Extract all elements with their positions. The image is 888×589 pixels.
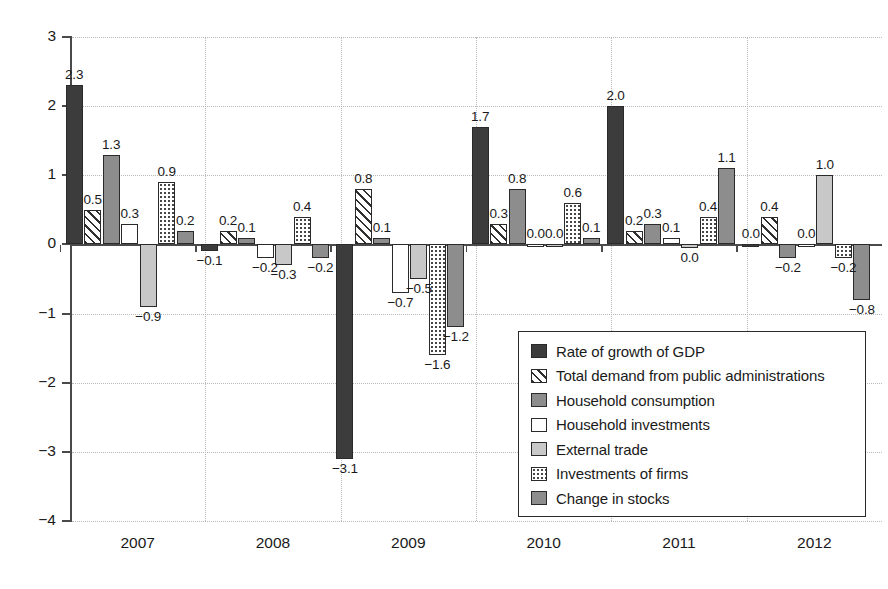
legend-swatch-icon — [531, 418, 547, 432]
y-axis-tick — [62, 520, 72, 522]
bar — [798, 244, 815, 247]
bar-value-label: −0.8 — [845, 302, 879, 317]
y-axis-tick-label: −1 — [18, 304, 56, 322]
legend-swatch-icon — [531, 369, 547, 383]
bar-value-label: 1.0 — [808, 157, 842, 172]
bar-value-label: 0.0 — [734, 226, 768, 241]
zero-line-tick — [330, 245, 332, 252]
y-axis-tick-label: 2 — [18, 96, 56, 114]
zero-line-tick — [195, 245, 197, 252]
y-axis-tick — [62, 382, 72, 384]
legend-swatch-icon — [531, 442, 547, 456]
bar-value-label: 1.1 — [710, 150, 744, 165]
bar-value-label: −0.2 — [304, 260, 338, 275]
bar — [700, 217, 717, 245]
bar — [140, 244, 157, 306]
bar-value-label: −0.1 — [193, 253, 227, 268]
bar-value-label: 1.3 — [94, 137, 128, 152]
zero-line-tick — [736, 245, 738, 252]
bar-value-label: −1.6 — [420, 357, 454, 372]
zero-line-tick — [601, 245, 603, 252]
bar-value-label: 0.4 — [285, 199, 319, 214]
legend-item[interactable]: Rate of growth of GDP — [531, 339, 865, 364]
y-axis-tick — [62, 313, 72, 315]
bar-value-label: −0.7 — [383, 295, 417, 310]
x-axis-label: 2010 — [504, 534, 584, 552]
zero-line-tick — [60, 245, 62, 252]
bar — [294, 217, 311, 245]
gridline-horizontal — [72, 521, 882, 523]
y-axis-tick-label: 3 — [18, 27, 56, 45]
bar-value-label: 1.7 — [463, 109, 497, 124]
bar-value-label: 0.3 — [482, 206, 516, 221]
legend-item-label: Rate of growth of GDP — [556, 343, 705, 360]
legend-swatch-icon — [531, 491, 547, 505]
bar — [312, 244, 329, 258]
bar — [373, 238, 390, 245]
bar — [779, 244, 796, 258]
bar-value-label: 0.1 — [654, 220, 688, 235]
x-axis-label: 2007 — [98, 534, 178, 552]
bar — [626, 231, 643, 245]
bar — [257, 244, 274, 258]
bar — [355, 189, 372, 244]
bar-value-label: 0.4 — [691, 199, 725, 214]
bar — [546, 244, 563, 247]
bar-value-label: 0.2 — [168, 213, 202, 228]
bar-value-label: −3.1 — [328, 461, 362, 476]
bar — [238, 238, 255, 245]
bar-value-label: 0.1 — [230, 220, 264, 235]
bar — [201, 244, 218, 251]
legend-item[interactable]: Household consumption — [531, 388, 865, 413]
bar — [121, 224, 138, 245]
legend-item[interactable]: Total demand from public administrations — [531, 364, 865, 389]
bar — [472, 127, 489, 245]
bar-value-label: −0.2 — [826, 260, 860, 275]
bar — [66, 85, 83, 244]
legend-item[interactable]: Investments of firms — [531, 462, 865, 487]
legend-item[interactable]: Change in stocks — [531, 486, 865, 511]
y-axis-tick-label: −4 — [18, 511, 56, 529]
legend-swatch-icon — [531, 467, 547, 481]
bar-value-label: −1.2 — [439, 329, 473, 344]
x-axis-label: 2008 — [233, 534, 313, 552]
bar-value-label: 0.0 — [673, 250, 707, 265]
legend-item[interactable]: Household investments — [531, 413, 865, 438]
y-axis-tick-label: −3 — [18, 442, 56, 460]
bar — [410, 244, 427, 279]
bar-value-label: 0.3 — [636, 206, 670, 221]
bar-value-label: 2.0 — [599, 88, 633, 103]
bar-value-label: −0.9 — [131, 309, 165, 324]
legend-item[interactable]: External trade — [531, 437, 865, 462]
bar-value-label: 0.8 — [346, 171, 380, 186]
bar-value-label: 0.3 — [113, 206, 147, 221]
y-axis-tick — [62, 36, 72, 38]
x-axis-label: 2012 — [774, 534, 854, 552]
y-axis-tick-label: 1 — [18, 165, 56, 183]
bar — [490, 224, 507, 245]
legend-item-label: Total demand from public administrations — [556, 367, 825, 384]
legend-swatch-icon — [531, 393, 547, 407]
bar — [835, 244, 852, 258]
bar-value-label: 0.5 — [76, 192, 110, 207]
legend-item-label: Change in stocks — [556, 490, 669, 507]
bar-chart: 3210−1−2−3−4 2.30.51.30.3−0.90.90.2−0.10… — [0, 0, 888, 589]
bar-value-label: 2.3 — [57, 67, 91, 82]
chart-legend: Rate of growth of GDPTotal demand from p… — [518, 331, 866, 517]
bar-value-label: 0.1 — [574, 220, 608, 235]
bar-value-label: 0.6 — [556, 185, 590, 200]
bar — [336, 244, 353, 458]
bar — [663, 238, 680, 245]
bar-value-label: 0.0 — [789, 226, 823, 241]
y-axis-tick-label: 0 — [18, 234, 56, 252]
bar-value-label: −0.2 — [771, 260, 805, 275]
legend-item-label: External trade — [556, 441, 648, 458]
bar-value-label: 0.4 — [752, 199, 786, 214]
legend-item-label: Household investments — [556, 416, 710, 433]
bar-value-label: 0.9 — [150, 164, 184, 179]
bar — [84, 210, 101, 245]
zero-line-tick — [466, 245, 468, 252]
bar — [177, 231, 194, 245]
x-axis-label: 2011 — [639, 534, 719, 552]
y-axis-tick-label: −2 — [18, 373, 56, 391]
